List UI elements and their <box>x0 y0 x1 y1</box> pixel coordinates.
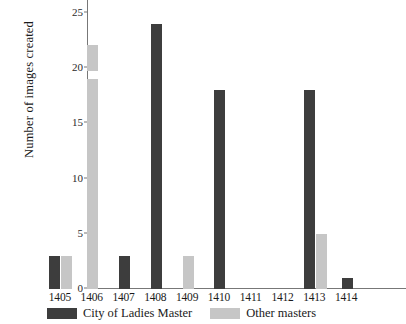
chart-legend: City of Ladies MasterOther masters <box>0 303 363 323</box>
x-tick-label: 1409 <box>176 291 198 303</box>
bar-other-masters <box>87 79 98 289</box>
bar-group <box>171 0 203 289</box>
bar-group <box>44 0 76 289</box>
bar-group <box>139 0 171 289</box>
x-tick-label: 1411 <box>240 291 262 303</box>
x-tick-label: 1412 <box>271 291 293 303</box>
bar-other-masters-top-segment <box>87 45 98 70</box>
bar-group <box>203 0 235 289</box>
legend-item-label: City of Ladies Master <box>83 306 192 321</box>
bar-other-masters <box>316 234 327 289</box>
legend-item[interactable]: Other masters <box>210 306 316 321</box>
x-tick-label: 1407 <box>112 291 134 303</box>
x-tick-label: 1413 <box>303 291 325 303</box>
legend-item-label: Other masters <box>246 306 316 321</box>
legend-item[interactable]: City of Ladies Master <box>47 306 192 321</box>
bar-series-container <box>44 0 362 289</box>
x-tick-label: 1408 <box>144 291 166 303</box>
legend-swatch-icon <box>210 308 240 319</box>
bar-group <box>76 0 108 289</box>
bar-other-masters <box>61 256 72 289</box>
bar-group <box>330 0 362 289</box>
legend-swatch-icon <box>47 308 77 319</box>
x-tick-label: 1406 <box>81 291 103 303</box>
bar-city-of-ladies-master <box>119 256 130 289</box>
bar-group <box>108 0 140 289</box>
x-tick-label: 1405 <box>49 291 71 303</box>
x-tick-label: 1410 <box>208 291 230 303</box>
bar-city-of-ladies-master <box>151 24 162 289</box>
bar-city-of-ladies-master <box>49 256 60 289</box>
bar-city-of-ladies-master <box>214 90 225 289</box>
bar-other-masters <box>183 256 194 289</box>
bar-group <box>267 0 299 289</box>
bar-group <box>235 0 267 289</box>
y-axis-title: Number of images created <box>22 8 38 158</box>
bar-city-of-ladies-master <box>342 278 353 289</box>
bar-city-of-ladies-master <box>304 90 315 289</box>
bar-group <box>298 0 330 289</box>
x-tick-label: 1414 <box>335 291 357 303</box>
